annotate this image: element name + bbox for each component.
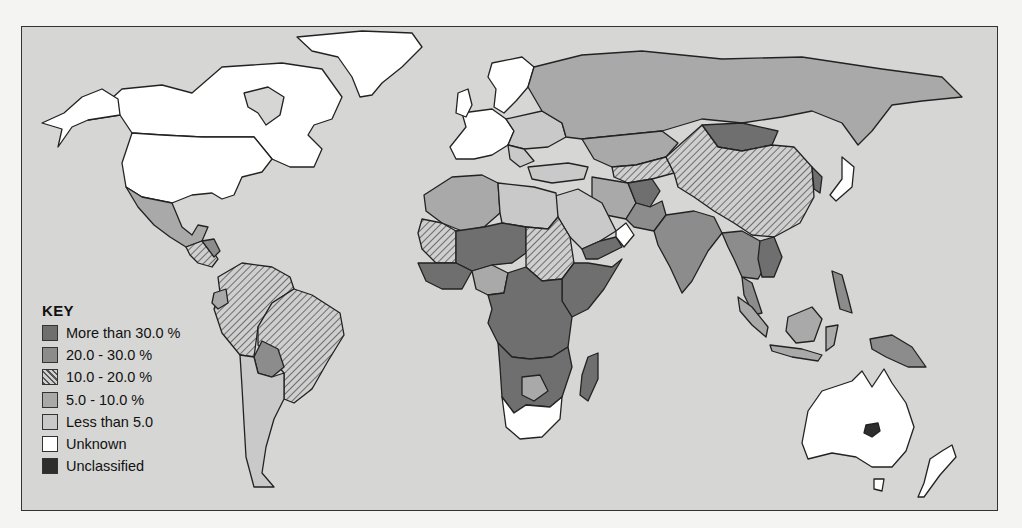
- region-west-africa: [418, 263, 472, 289]
- legend-swatch-10-20: [42, 369, 58, 385]
- legend-item-unknown: Unknown: [42, 434, 126, 454]
- legend-label: 5.0 - 10.0 %: [66, 392, 144, 408]
- world-map-frame: KEY More than 30.0 % 20.0 - 30.0 % 10.0 …: [21, 26, 998, 511]
- legend-title: KEY: [42, 302, 74, 319]
- region-papua-new-guinea: [870, 335, 926, 367]
- region-japan: [830, 157, 854, 201]
- region-java: [770, 345, 822, 361]
- region-australia: [802, 369, 914, 467]
- region-argentina-chile: [240, 355, 284, 487]
- region-united-states: [122, 133, 272, 203]
- region-alaska: [42, 89, 120, 147]
- region-north-africa: [498, 183, 558, 229]
- legend-swatch-20-30: [42, 347, 58, 363]
- region-korea: [812, 167, 822, 193]
- legend-item-more-than-30: More than 30.0 %: [42, 323, 180, 343]
- region-sahel: [456, 223, 526, 271]
- region-india: [654, 211, 722, 293]
- region-horn-of-africa: [562, 259, 622, 317]
- legend-item-10-20: 10.0 - 20.0 %: [42, 367, 152, 387]
- legend-label: Unknown: [66, 436, 126, 452]
- legend-label: 20.0 - 30.0 %: [66, 347, 152, 363]
- region-philippines: [832, 271, 852, 313]
- legend-swatch-5-10: [42, 392, 58, 408]
- legend-label: More than 30.0 %: [66, 325, 180, 341]
- region-turkey: [528, 163, 588, 183]
- region-scandinavia: [488, 57, 534, 113]
- legend-item-5-10: 5.0 - 10.0 %: [42, 390, 144, 410]
- region-borneo: [786, 307, 822, 343]
- legend-item-less-than-5: Less than 5.0: [42, 412, 153, 432]
- legend-label: Less than 5.0: [66, 414, 153, 430]
- legend-item-unclassified: Unclassified: [42, 456, 144, 476]
- region-nigeria: [472, 265, 508, 295]
- legend-label: Unclassified: [66, 458, 144, 474]
- legend-swatch-less-than-5: [42, 414, 58, 430]
- legend-swatch-more-than-30: [42, 325, 58, 341]
- region-tasmania: [874, 479, 884, 491]
- region-new-zealand: [918, 445, 956, 497]
- legend-label: 10.0 - 20.0 %: [66, 369, 152, 385]
- region-western-europe: [450, 109, 514, 159]
- legend-item-20-30: 20.0 - 30.0 %: [42, 345, 152, 365]
- region-sulawesi: [826, 325, 838, 351]
- legend-swatch-unclassified: [42, 458, 58, 474]
- region-cambodia-vietnam: [758, 237, 782, 277]
- world-choropleth-map: [22, 27, 998, 511]
- legend-swatch-unknown: [42, 436, 58, 452]
- region-madagascar: [580, 353, 598, 401]
